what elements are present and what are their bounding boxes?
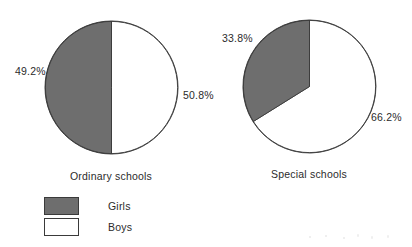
pie-chart-special-schools xyxy=(243,20,376,153)
pct-label-girls-ordinary: 49.2% xyxy=(15,66,46,77)
caption-special-schools: Special schools xyxy=(239,169,379,180)
pie-slice-girls-ordinary xyxy=(45,21,112,154)
pie-slice-boys-ordinary xyxy=(112,21,179,154)
legend-swatch-girls xyxy=(44,197,79,215)
legend-item-boys: Boys xyxy=(44,217,132,237)
caption-ordinary-schools: Ordinary schools xyxy=(41,171,181,182)
legend-swatch-boys xyxy=(44,218,79,236)
pie-special-svg xyxy=(243,20,376,153)
pie-ordinary-svg xyxy=(45,21,178,154)
pct-label-boys-special: 66.2% xyxy=(371,112,402,123)
legend-label-boys: Boys xyxy=(108,222,132,233)
legend-item-girls: Girls xyxy=(44,196,132,216)
pct-label-girls-special: 33.8% xyxy=(222,33,253,44)
pct-label-boys-ordinary: 50.8% xyxy=(183,90,214,101)
pie-chart-figure: 49.2% 50.8% Ordinary schools 33.8% 66.2%… xyxy=(0,0,412,247)
pie-chart-ordinary-schools xyxy=(45,21,178,154)
legend-label-girls: Girls xyxy=(108,201,131,212)
chart-legend: Girls Boys xyxy=(44,196,132,238)
scan-speckle-artifact xyxy=(300,232,400,242)
